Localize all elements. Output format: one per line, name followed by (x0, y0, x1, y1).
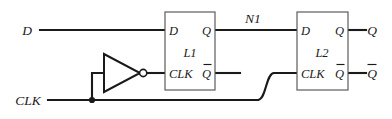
qbar-output-label: Q (367, 66, 377, 81)
inverter-bubble-icon (140, 69, 147, 76)
latch-l2-pin-qbar-label: Q (335, 67, 344, 81)
schematic-canvas: D CLK D CLK Q Q L1 N1 D CLK Q Q L2 Q Q (0, 0, 392, 119)
latch-l2-pin-q-label: Q (335, 24, 344, 38)
wire-clk-to-l2-clk (258, 73, 297, 100)
q-output-label: Q (367, 23, 377, 38)
data-input-label: D (21, 23, 32, 38)
latch-l2-label: L2 (314, 46, 328, 60)
latch-l1-pin-clk-label: CLK (169, 67, 193, 81)
latch-l2-pin-clk-label: CLK (301, 67, 325, 81)
junction-dot-clk (89, 97, 95, 103)
clock-inverter-icon (104, 54, 140, 92)
latch-l1-pin-d-label: D (168, 24, 178, 38)
wire-clk-to-inverter (92, 73, 104, 100)
net-n1-label: N1 (244, 11, 261, 26)
latch-l2-pin-d-label: D (300, 24, 310, 38)
latch-l1-pin-q-label: Q (202, 24, 211, 38)
latch-l1-label: L1 (182, 46, 196, 60)
circuit-schematic: D CLK D CLK Q Q L1 N1 D CLK Q Q L2 Q Q (0, 0, 392, 119)
clock-input-label: CLK (15, 93, 42, 108)
latch-l1-pin-qbar-label: Q (202, 67, 211, 81)
